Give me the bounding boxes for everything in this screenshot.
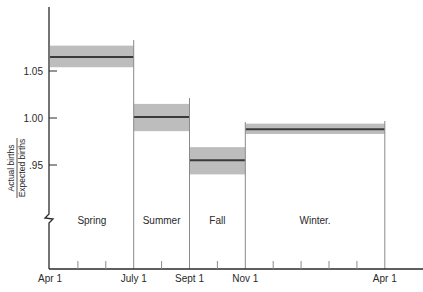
x-axis-minor-ticks [78, 261, 357, 269]
y-axis-label-numerator: Actual births [6, 145, 16, 192]
season-labels: SpringSummerFallWinter. [77, 215, 330, 226]
y-tick-label: .95 [29, 160, 43, 171]
season-label-spring: Spring [77, 215, 106, 226]
x-tick-label: July 1 [121, 273, 148, 284]
y-axis-label: Actual births Expected births [6, 138, 27, 198]
season-label-summer: Summer [143, 215, 181, 226]
x-tick-label: Sept 1 [175, 273, 204, 284]
season-label-winter: Winter. [299, 215, 330, 226]
y-axis-label-denominator: Expected births [17, 139, 27, 198]
x-axis-tick-labels: Apr 1July 1Sept 1Nov 1Apr 1 [38, 273, 397, 284]
season-label-fall: Fall [209, 215, 225, 226]
season-dividers [134, 40, 385, 269]
season-bands [50, 46, 385, 175]
y-axis-ticks: 1.051.00.95 [24, 66, 57, 171]
y-tick-label: 1.05 [24, 66, 44, 77]
births-seasonality-chart: Actual births Expected births 1.051.00.9… [0, 0, 423, 292]
x-tick-label: Apr 1 [373, 273, 397, 284]
y-tick-label: 1.00 [24, 113, 44, 124]
x-tick-label: Nov 1 [232, 273, 259, 284]
x-tick-label: Apr 1 [38, 273, 62, 284]
